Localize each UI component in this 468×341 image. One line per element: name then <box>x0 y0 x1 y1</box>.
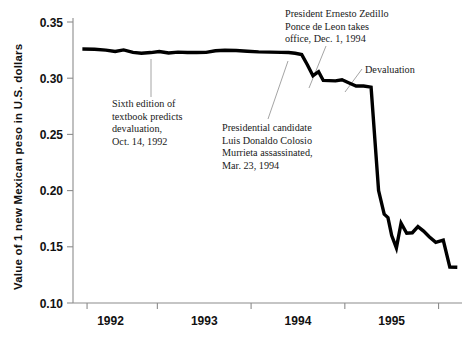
y-tick-label: 0.25 <box>40 128 64 142</box>
annotation-textbook: Sixth edition oftextbook predictsdevalua… <box>112 98 182 147</box>
y-tick-label: 0.15 <box>40 240 64 254</box>
annotation-line: President Ernesto Zedillo <box>285 8 389 19</box>
annotation-line: textbook predicts <box>112 111 182 122</box>
y-tick-label: 0.10 <box>40 297 64 311</box>
x-tick-label: 1992 <box>97 314 124 328</box>
annotation-colosio: Presidential candidateLuis Donaldo Colos… <box>222 122 313 171</box>
x-axis-ticks <box>87 303 439 309</box>
annotation-line: Mar. 23, 1994 <box>222 160 279 171</box>
y-axis-ticks <box>67 22 73 303</box>
y-tick-label: 0.30 <box>40 72 64 86</box>
x-tick-label: 1995 <box>378 314 405 328</box>
y-axis-title: Value of 1 new Mexican peso in U.S. doll… <box>12 44 24 290</box>
annotation-line: Murrieta assassinated, <box>222 147 313 158</box>
annotation-line: Presidential candidate <box>222 122 312 133</box>
annotation-devaluation: Devaluation <box>365 64 415 75</box>
leader-line-colosio <box>268 61 288 119</box>
annotation-line: office, Dec. 1, 1994 <box>285 33 366 44</box>
y-tick-label: 0.35 <box>40 16 64 30</box>
annotation-line: Oct. 14, 1992 <box>112 136 167 147</box>
chart-annotations: Sixth edition oftextbook predictsdevalua… <box>112 8 415 171</box>
x-tick-label: 1993 <box>191 314 218 328</box>
annotation-zedillo: President Ernesto ZedilloPonce de Leon t… <box>285 8 389 44</box>
annotation-line: devaluation, <box>112 123 162 134</box>
chart-page: Value of 1 new Mexican peso in U.S. doll… <box>0 0 468 341</box>
x-tick-label: 1994 <box>285 314 312 328</box>
annotation-line: Sixth edition of <box>112 98 176 109</box>
annotation-line: Luis Donaldo Colosio <box>222 135 312 146</box>
annotation-leader-lines <box>151 46 362 119</box>
y-axis-title-text: Value of 1 new Mexican peso in U.S. doll… <box>12 44 24 290</box>
y-tick-label: 0.20 <box>40 184 64 198</box>
annotation-line: Devaluation <box>365 64 415 75</box>
peso-value-line-chart: Value of 1 new Mexican peso in U.S. doll… <box>0 0 468 341</box>
y-axis-tick-labels: 0.350.300.250.200.150.10 <box>40 16 64 311</box>
x-axis-tick-labels: 1992199319941995 <box>97 314 405 328</box>
annotation-line: Ponce de Leon takes <box>285 21 369 32</box>
